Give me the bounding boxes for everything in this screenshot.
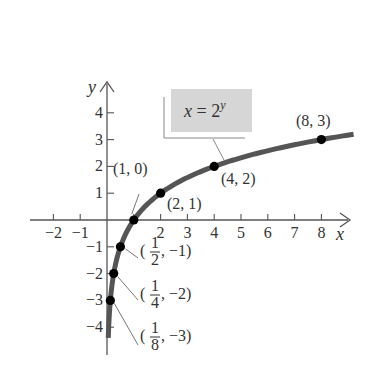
y-tick-label: 4 <box>95 104 103 121</box>
y-tick-label: −1 <box>86 238 103 255</box>
point-label-fraction: (14, −2) <box>140 277 191 311</box>
data-point <box>210 162 219 171</box>
data-point <box>317 135 326 144</box>
chart-canvas: xy −2−12345678−4−3−2−11234 (1, 0)(2, 1)(… <box>0 0 378 388</box>
equation-text: x = 2y <box>183 98 226 121</box>
x-tick-label: 4 <box>210 224 218 241</box>
y-tick-label: 3 <box>95 131 103 148</box>
svg-text:(: ( <box>140 285 145 303</box>
point-label-fraction: (18, −3) <box>140 319 191 353</box>
svg-text:1: 1 <box>151 277 159 294</box>
x-tick-label: 3 <box>183 224 191 241</box>
equation-label-box: x = 2y <box>164 89 252 160</box>
x-axis-label: x <box>335 224 344 244</box>
data-point <box>109 269 118 278</box>
x-tick-label: 5 <box>237 224 245 241</box>
svg-text:8: 8 <box>151 336 159 353</box>
svg-text:, −3): , −3) <box>161 327 191 345</box>
svg-text:, −1): , −1) <box>161 242 191 260</box>
svg-text:1: 1 <box>151 234 159 251</box>
x-tick-label: 7 <box>291 224 299 241</box>
svg-text:4: 4 <box>151 294 159 311</box>
svg-text:(: ( <box>140 242 145 260</box>
point-label: (2, 1) <box>167 195 202 213</box>
data-point <box>129 215 138 224</box>
svg-text:(: ( <box>140 327 145 345</box>
point-label: (8, 3) <box>296 112 331 130</box>
point-label: (1, 0) <box>113 160 148 178</box>
data-point <box>106 296 115 305</box>
y-tick-label: −4 <box>86 318 103 335</box>
y-tick-label: −2 <box>86 265 103 282</box>
svg-text:, −2): , −2) <box>161 285 191 303</box>
x-tick-label: −2 <box>45 224 62 241</box>
y-tick-label: 2 <box>95 157 103 174</box>
x-tick-label: 6 <box>264 224 272 241</box>
svg-text:2: 2 <box>151 251 159 268</box>
y-tick-label: −3 <box>86 291 103 308</box>
data-point <box>116 242 125 251</box>
x-tick-label: 8 <box>317 224 325 241</box>
y-tick-label: 1 <box>95 184 103 201</box>
y-axis-label: y <box>86 77 96 97</box>
svg-text:1: 1 <box>151 319 159 336</box>
data-point <box>156 189 165 198</box>
point-label: (4, 2) <box>221 170 256 188</box>
